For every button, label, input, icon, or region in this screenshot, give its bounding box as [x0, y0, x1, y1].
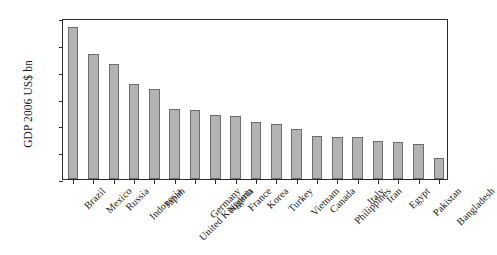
bar	[312, 136, 323, 179]
y-axis-tick-mark	[59, 127, 64, 128]
bar	[413, 144, 424, 179]
x-axis-tick-mark	[419, 179, 420, 184]
x-axis-tick-mark	[337, 179, 338, 184]
x-axis-tick-mark	[93, 179, 94, 184]
y-axis-tick-mark	[59, 20, 64, 21]
x-axis-tick-mark	[73, 179, 74, 184]
bar	[169, 109, 180, 179]
x-axis-tick-label: Egypt	[407, 186, 432, 211]
x-axis-tick-mark	[236, 179, 237, 184]
x-axis-tick-mark	[378, 179, 379, 184]
x-axis-tick-mark	[195, 179, 196, 184]
bar	[291, 129, 302, 179]
x-axis-tick-mark	[358, 179, 359, 184]
bar	[373, 141, 384, 179]
bar	[190, 110, 201, 179]
plot-area: 02,0004,0006,0008,00010,00012,000	[62, 19, 448, 180]
x-axis-tick-mark	[276, 179, 277, 184]
x-axis-tick-mark	[154, 179, 155, 184]
y-axis-tick-mark	[59, 74, 64, 75]
bar	[149, 89, 160, 179]
bar	[393, 142, 404, 179]
bar	[271, 124, 282, 179]
bar	[210, 115, 221, 179]
x-axis-tick-mark	[398, 179, 399, 184]
bar	[332, 137, 343, 179]
x-axis-tick-label: Pakistan	[431, 186, 463, 218]
bar	[68, 27, 79, 179]
x-axis-tick-mark	[175, 179, 176, 184]
x-axis-tick-mark	[114, 179, 115, 184]
x-axis-tick-mark	[215, 179, 216, 184]
y-axis-tick-mark	[59, 181, 64, 182]
x-axis-tick-mark	[256, 179, 257, 184]
y-axis-tick-mark	[59, 154, 64, 155]
bar	[251, 122, 262, 179]
x-axis-tick-label: Japan	[163, 186, 187, 210]
y-axis-tick-mark	[59, 101, 64, 102]
bar	[88, 54, 99, 179]
bar	[352, 137, 363, 179]
y-axis-tick-mark	[59, 47, 64, 48]
x-axis-tick-mark	[439, 179, 440, 184]
x-axis-tick-mark	[317, 179, 318, 184]
bar	[109, 64, 120, 179]
bar	[129, 84, 140, 179]
bar	[434, 158, 445, 179]
x-axis-tick-mark	[134, 179, 135, 184]
y-axis-title: GDP 2006 US$ bn	[22, 29, 34, 179]
x-axis-tick-mark	[297, 179, 298, 184]
bar	[230, 116, 241, 179]
